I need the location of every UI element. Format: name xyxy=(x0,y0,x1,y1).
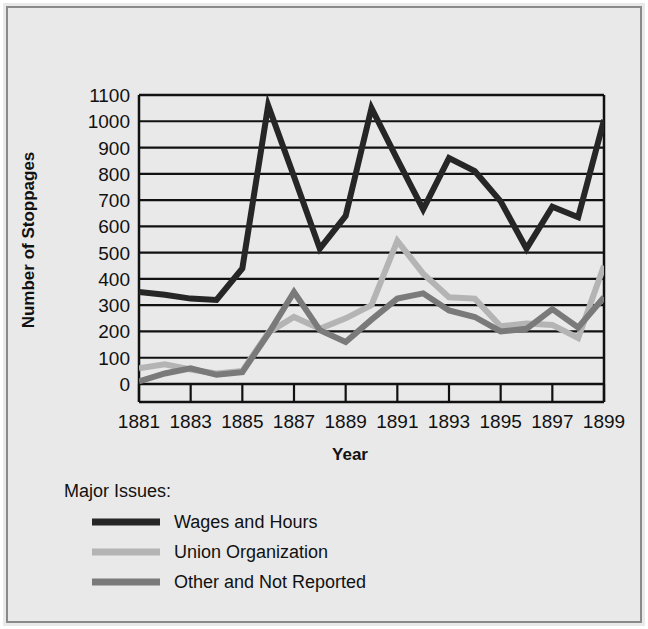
legend-label: Union Organization xyxy=(174,542,328,562)
axis-lines xyxy=(139,95,604,402)
series-line xyxy=(139,106,604,300)
x-tick-label: 1883 xyxy=(170,411,212,432)
legend-label: Other and Not Reported xyxy=(174,572,366,592)
y-tick-label: 500 xyxy=(98,243,130,264)
x-tick-label: 1891 xyxy=(376,411,418,432)
x-tick-label: 1881 xyxy=(118,411,160,432)
x-axis-tick-labels: 1881188318851887188918911893189518971899 xyxy=(118,411,625,432)
y-tick-label: 300 xyxy=(98,295,130,316)
y-tick-label: 600 xyxy=(98,216,130,237)
x-tick-label: 1889 xyxy=(325,411,367,432)
y-axis-title: Number of Stoppages xyxy=(19,152,38,329)
x-tick-label: 1895 xyxy=(480,411,522,432)
figure-border: 010020030040050060070080090010001100 188… xyxy=(6,6,642,623)
figure-container: 010020030040050060070080090010001100 188… xyxy=(0,0,648,629)
y-tick-label: 700 xyxy=(98,190,130,211)
y-tick-label: 200 xyxy=(98,321,130,342)
x-axis-title: Year xyxy=(332,445,368,464)
x-tick-label: 1885 xyxy=(221,411,263,432)
x-tick-label: 1897 xyxy=(531,411,573,432)
line-chart: 010020030040050060070080090010001100 188… xyxy=(8,8,646,627)
y-tick-label: 1000 xyxy=(88,111,130,132)
x-tick-label: 1887 xyxy=(273,411,315,432)
y-tick-label: 1100 xyxy=(89,85,130,106)
series-line xyxy=(139,241,604,374)
legend-heading: Major Issues: xyxy=(64,481,171,501)
legend-label: Wages and Hours xyxy=(174,512,317,532)
y-tick-label: 0 xyxy=(119,374,130,395)
y-tick-label: 800 xyxy=(98,164,130,185)
y-tick-label: 100 xyxy=(98,348,130,369)
y-tick-label: 400 xyxy=(98,269,130,290)
x-tick-label: 1893 xyxy=(428,411,470,432)
x-tick-label: 1899 xyxy=(583,411,625,432)
y-tick-label: 900 xyxy=(98,138,130,159)
y-axis-tick-labels: 010020030040050060070080090010001100 xyxy=(88,85,130,395)
legend: Wages and HoursUnion OrganizationOther a… xyxy=(92,512,366,592)
